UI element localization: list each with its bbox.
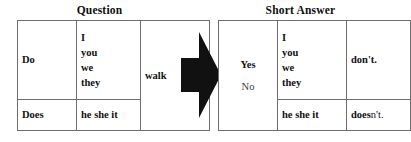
short-answer-subjects-plural: I you we they bbox=[278, 21, 347, 100]
short-answer-panel-title: Short Answer bbox=[218, 4, 383, 17]
short-answer-negative-plural: don't. bbox=[347, 21, 411, 100]
pronoun-item: I bbox=[81, 30, 136, 45]
short-answer-negative-singular: doesn't. bbox=[347, 100, 411, 131]
flow-arrow-right-icon bbox=[181, 28, 221, 122]
short-answer-subjects-singular: he she it bbox=[278, 100, 347, 131]
pronoun-item: I bbox=[282, 30, 342, 45]
response-yes: Yes bbox=[223, 54, 273, 76]
pronoun-item: they bbox=[282, 75, 342, 90]
response-stack: Yes No bbox=[223, 52, 273, 100]
question-subjects-plural: I you we they bbox=[77, 21, 141, 100]
question-auxiliary-plural: Do bbox=[18, 21, 77, 100]
pronoun-stack: I you we they bbox=[282, 27, 342, 93]
short-answer-response: Yes No bbox=[219, 21, 278, 131]
response-no: No bbox=[223, 76, 273, 98]
pronoun-item: we bbox=[282, 60, 342, 75]
short-answer-table: Yes No I you we they don't. he she it do… bbox=[218, 20, 411, 131]
pronoun-item: you bbox=[282, 45, 342, 60]
pronoun-item: we bbox=[81, 60, 136, 75]
pronoun-item: you bbox=[81, 45, 136, 60]
negative-light-part: n't. bbox=[371, 109, 384, 120]
question-panel-title: Question bbox=[17, 4, 182, 17]
pronoun-stack: I you we they bbox=[81, 27, 136, 93]
negative-bold-part: does bbox=[351, 109, 371, 120]
pronoun-item: they bbox=[81, 75, 136, 90]
table-row: Yes No I you we they don't. bbox=[219, 21, 411, 100]
question-auxiliary-singular: Does bbox=[18, 100, 77, 131]
question-subjects-singular: he she it bbox=[77, 100, 141, 131]
